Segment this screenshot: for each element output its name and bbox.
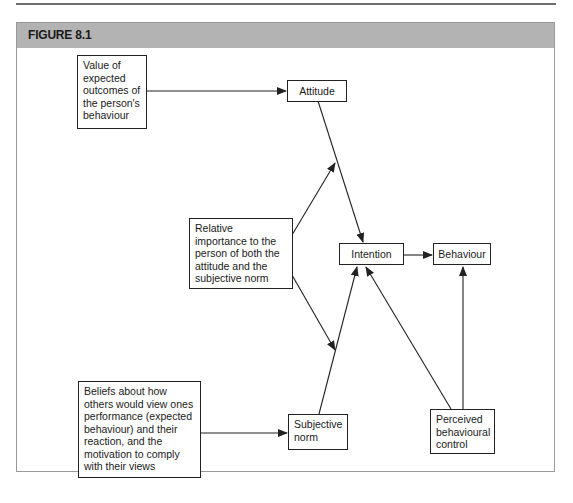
node-beliefs: Beliefs about how others would view ones… — [78, 381, 201, 478]
node-relative-importance: Relative importance to the person of bot… — [189, 218, 293, 289]
edge-norm-to-intention — [319, 267, 357, 414]
node-perceived-behavioural-control: Perceived behavioural control — [430, 409, 495, 454]
node-intention: Intention — [339, 243, 404, 265]
node-label: Relative importance to the person of bot… — [195, 222, 280, 284]
node-label: Intention — [351, 248, 391, 260]
node-label: Beliefs about how others would view ones… — [84, 385, 193, 472]
node-behaviour: Behaviour — [433, 243, 491, 265]
node-label: Perceived behavioural control — [436, 413, 490, 450]
node-label: Attitude — [299, 85, 335, 97]
edge-importance-to-norm-link — [292, 275, 335, 350]
edge-attitude-to-intention — [318, 101, 363, 242]
node-value-of-expected-outcomes: Value of expected outcomes of the person… — [77, 55, 147, 129]
node-label: Subjective norm — [294, 418, 342, 443]
node-label: Behaviour — [438, 248, 485, 260]
node-subjective-norm: Subjective norm — [288, 414, 348, 450]
edge-control-to-intention — [366, 267, 451, 409]
node-label: Value of expected outcomes of the person… — [83, 59, 140, 121]
node-attitude: Attitude — [287, 80, 347, 102]
edge-importance-to-attitude-link — [292, 163, 335, 235]
